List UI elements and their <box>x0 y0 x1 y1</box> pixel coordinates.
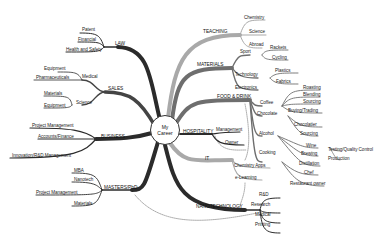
node-alcohol[interactable]: Alcohol <box>259 131 274 136</box>
node-teaching[interactable]: TEACHING <box>203 29 227 34</box>
node-plastics[interactable]: Plastics <box>275 68 290 73</box>
node-pharmaceuticals[interactable]: Pharmaceuticals <box>36 75 69 80</box>
node-restaurant-owner[interactable]: Restaurant owner <box>290 181 325 186</box>
connector-food-it <box>245 104 249 160</box>
node-food-drink[interactable]: FOOD & DRINK <box>217 94 251 99</box>
node-rackets[interactable]: Rackets <box>270 45 286 50</box>
branch-law <box>118 47 160 120</box>
node-patent[interactable]: Patent <box>82 27 95 32</box>
node-testing-quality-control[interactable]: Testing/Quality Control <box>328 147 373 152</box>
node-financial[interactable]: Financial <box>78 37 96 42</box>
node-buying-trading[interactable]: Buying/Trading <box>288 108 318 113</box>
node-chemistry-apps[interactable]: Chemistry Apps <box>234 163 265 168</box>
node-innovation-rd[interactable]: Innovation/R&D Management <box>12 153 71 158</box>
node-chemistry-teaching[interactable]: Chemistry <box>244 15 264 20</box>
branch-it <box>170 143 232 160</box>
node-project-management-masters[interactable]: Project Management <box>36 190 78 195</box>
node-project-management-biz[interactable]: Project Management <box>32 123 74 128</box>
branch-teaching <box>168 35 240 118</box>
node-coffee[interactable]: Coffee <box>260 100 273 105</box>
node-electronics[interactable]: Electronics <box>235 85 257 90</box>
node-brewing[interactable]: Brewing <box>301 151 317 156</box>
node-blending[interactable]: Blending <box>303 92 320 97</box>
node-roasting[interactable]: Roasting <box>303 85 321 90</box>
node-materials-masters[interactable]: Materials <box>74 201 92 206</box>
node-science-equipment[interactable]: Equipment <box>44 103 66 108</box>
node-management-hospitality[interactable]: Management <box>216 127 242 132</box>
node-sport[interactable]: Sport <box>240 49 251 54</box>
node-nanotech-masters[interactable]: Nanotech <box>74 177 93 182</box>
node-cycling[interactable]: Cycling <box>272 55 287 60</box>
node-fabrics[interactable]: Fabrics <box>276 79 291 84</box>
node-science-teaching[interactable]: Science <box>249 29 265 34</box>
node-abroad[interactable]: Abroad <box>249 42 264 47</box>
node-masters-phd[interactable]: MASTERS/PhD <box>104 185 137 190</box>
node-medical[interactable]: Medical <box>82 74 97 79</box>
node-distillation[interactable]: Distillation <box>299 161 319 166</box>
node-chocolatier[interactable]: Chocolatier <box>294 122 317 127</box>
node-accounts-finance[interactable]: Accounts/Finance <box>38 134 74 139</box>
node-materials[interactable]: MATERIALS <box>197 62 223 67</box>
node-nanotechnology[interactable]: NANOTECHNOLOGY <box>196 204 243 209</box>
node-printing[interactable]: Printing <box>255 222 270 227</box>
node-owner[interactable]: Owner <box>225 140 238 145</box>
node-health-safety[interactable]: Health and Safety <box>66 47 102 52</box>
node-technology[interactable]: Technology <box>235 72 258 77</box>
node-science[interactable]: Science <box>76 100 92 105</box>
node-sourcing-coffee[interactable]: Sourcing <box>303 99 321 104</box>
node-it[interactable]: IT <box>205 156 209 161</box>
node-e-learning[interactable]: e-Learning <box>235 175 256 180</box>
node-sourcing-chocolate[interactable]: Sourcing <box>300 131 318 136</box>
branch-food <box>175 100 250 125</box>
node-medical-equipment[interactable]: Equipment <box>44 66 66 71</box>
node-rd[interactable]: R&D <box>259 192 269 197</box>
node-business[interactable]: BUSINESS <box>101 134 125 139</box>
node-mba[interactable]: MBA <box>74 168 84 173</box>
node-chef[interactable]: Chef <box>304 170 314 175</box>
branch-sales <box>105 92 155 126</box>
center-node[interactable]: My Career <box>150 115 180 145</box>
node-sales[interactable]: SALES <box>108 86 123 91</box>
node-medical-nano[interactable]: Medical <box>255 212 270 217</box>
node-law[interactable]: LAW <box>115 41 125 46</box>
node-chocolate[interactable]: Chocolate <box>257 111 277 116</box>
center-label-line2: Career <box>157 130 172 136</box>
node-production[interactable]: Production <box>328 156 349 161</box>
branch-masters <box>132 142 158 190</box>
branch-nanotech <box>165 145 245 210</box>
node-wine[interactable]: Wine <box>306 143 316 148</box>
node-cooking[interactable]: Cooking <box>259 150 276 155</box>
node-research[interactable]: Research <box>251 202 270 207</box>
node-materials-sales[interactable]: Materials <box>44 91 62 96</box>
node-hospitality[interactable]: HOSPITALITY <box>183 129 213 134</box>
